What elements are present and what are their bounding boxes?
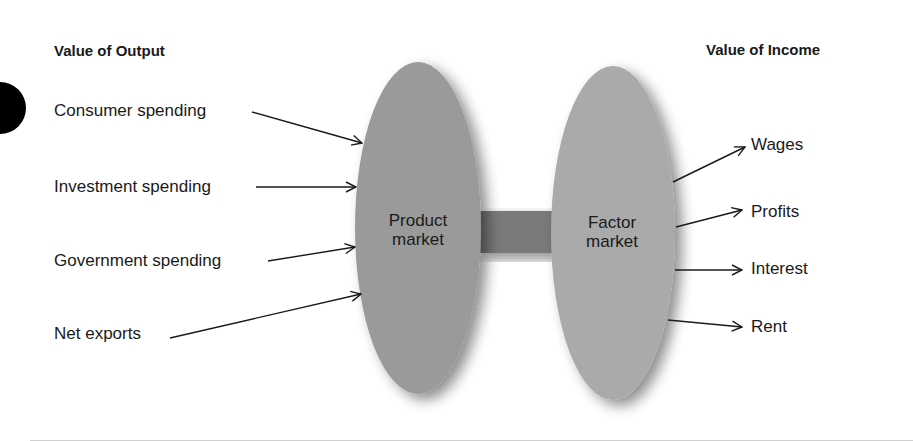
- product-market-line2: market: [363, 230, 473, 249]
- arrow-wages: [673, 147, 745, 182]
- arrow-net-exports: [170, 294, 361, 338]
- product-market-line1: Product: [363, 211, 473, 230]
- factor-market-label: Factor market: [557, 213, 667, 251]
- circular-flow-diagram: Value of Output Value of Income Consumer…: [0, 0, 913, 441]
- arrow-profits: [676, 210, 742, 227]
- factor-market-line2: market: [557, 232, 667, 251]
- arrow-government-spending: [268, 247, 355, 261]
- label-net-exports: Net exports: [54, 324, 141, 344]
- label-consumer-spending: Consumer spending: [54, 101, 206, 121]
- label-rent: Rent: [751, 317, 787, 337]
- label-profits: Profits: [751, 202, 799, 222]
- value-of-output-heading: Value of Output: [54, 42, 165, 60]
- value-of-income-heading: Value of Income: [706, 41, 820, 59]
- product-market-label: Product market: [363, 211, 473, 249]
- factor-market-line1: Factor: [557, 213, 667, 232]
- label-wages: Wages: [751, 135, 803, 155]
- label-government-spending: Government spending: [54, 251, 221, 271]
- label-interest: Interest: [751, 259, 808, 279]
- label-investment-spending: Investment spending: [54, 177, 211, 197]
- arrow-consumer-spending: [252, 112, 362, 143]
- connector-bar: [478, 211, 554, 253]
- arrow-rent: [668, 320, 742, 327]
